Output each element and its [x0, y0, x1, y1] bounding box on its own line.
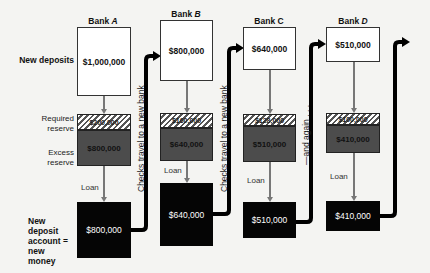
bank-c-new-account-box: $510,000 — [243, 202, 296, 238]
bank-d-required-reserve: $100,000 — [326, 113, 380, 125]
checks-travel-label: Checks travel to a new bank — [219, 85, 229, 192]
row-label-excess-line2: reserve — [4, 158, 74, 168]
arrow-line — [269, 162, 271, 198]
bank-a-new-deposit-box: $1,000,000 — [77, 27, 131, 96]
bank-label-text: Bank — [88, 16, 109, 26]
bank-a-label: Bank A — [73, 16, 133, 26]
row-label-required-line1: Required — [4, 114, 74, 124]
bank-b-excess-reserve: $640,000 — [160, 128, 213, 161]
row-label-required-line2: reserve — [4, 124, 74, 134]
row-label-new-account-line1: New deposit — [28, 216, 74, 236]
bank-a-new-account-box: $800,000 — [77, 202, 131, 258]
row-label-excess-line1: Excess — [4, 148, 74, 158]
row-label-new-deposits: New deposits — [4, 55, 74, 65]
bank-b-new-account-box: $640,000 — [160, 183, 213, 246]
bank-d-new-deposit-box: $510,000 — [326, 27, 380, 62]
bank-a-required-reserve: $200,000 — [77, 114, 131, 130]
row-label-required-reserve: Required reserve — [4, 114, 74, 134]
loan-label: Loan — [81, 183, 99, 192]
arrow-line — [186, 161, 188, 179]
arrow-line — [269, 70, 271, 110]
bank-d-new-account-box: $410,000 — [326, 201, 380, 231]
arrow-line — [103, 96, 105, 110]
bank-letter: B — [195, 9, 201, 19]
bank-c-excess-reserve: $510,000 — [243, 126, 296, 162]
bank-d-label: Bank D — [323, 16, 383, 26]
loan-label: Loan — [247, 176, 265, 185]
bank-b-new-deposit-box: $800,000 — [160, 20, 213, 81]
loan-label: Loan — [164, 166, 182, 175]
bank-letter: D — [362, 16, 368, 26]
and-again-label: —and again . . . — [301, 105, 311, 165]
bank-b-label: Bank B — [156, 9, 216, 19]
arrow-line — [353, 62, 355, 109]
bank-label-text: Bank — [171, 9, 192, 19]
bank-letter: A — [112, 16, 118, 26]
bank-label-text: Bank — [254, 16, 275, 26]
row-label-new-account: New deposit account = new money — [0, 216, 74, 266]
bank-d-excess-reserve: $410,000 — [326, 125, 380, 153]
arrow-line — [103, 166, 105, 198]
loan-label: Loan — [330, 172, 348, 181]
bank-label-text: Bank — [338, 16, 359, 26]
arrow-line — [186, 81, 188, 109]
arrow-line — [353, 153, 355, 197]
bank-b-required-reserve: $160,000 — [160, 113, 213, 128]
bank-letter: C — [278, 16, 284, 26]
bank-c-label: Bank C — [239, 16, 299, 26]
bank-a-excess-reserve: $800,000 — [77, 130, 131, 166]
bank-c-new-deposit-box: $640,000 — [243, 27, 296, 70]
row-label-new-account-line2: account = — [28, 236, 74, 246]
row-label-excess-reserve: Excess reserve — [4, 148, 74, 168]
checks-travel-label: Checks travel to a new bank — [136, 85, 146, 192]
row-label-new-account-line3: new money — [28, 246, 74, 266]
bank-c-required-reserve: $128,000 — [243, 114, 296, 126]
